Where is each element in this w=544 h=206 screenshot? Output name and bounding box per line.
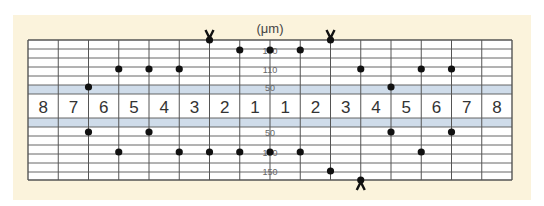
lower-data-point xyxy=(85,128,92,135)
lower-data-point xyxy=(145,128,152,135)
upper-scale-label: 50 xyxy=(265,83,275,93)
v-marker-icon xyxy=(327,30,335,38)
lower-scale-label: 150 xyxy=(262,167,277,177)
upper-data-point xyxy=(357,65,364,72)
column-label: 7 xyxy=(69,98,78,117)
column-label: 2 xyxy=(311,98,320,117)
v-marker-icon xyxy=(206,30,214,38)
lower-data-point xyxy=(418,148,425,155)
column-label: 6 xyxy=(432,98,441,117)
lower-data-point xyxy=(206,148,213,155)
upper-data-point xyxy=(115,65,122,72)
lower-data-point xyxy=(297,148,304,155)
upper-data-point xyxy=(418,65,425,72)
column-label: 4 xyxy=(371,98,380,117)
column-label: 2 xyxy=(220,98,229,117)
column-label: 6 xyxy=(99,98,108,117)
column-label: 1 xyxy=(280,98,289,117)
lower-data-point xyxy=(387,128,394,135)
lower-data-point xyxy=(115,148,122,155)
column-label: 1 xyxy=(250,98,259,117)
column-label: 8 xyxy=(492,98,501,117)
lower-scale-label: 50 xyxy=(265,128,275,138)
lower-data-point xyxy=(176,148,183,155)
upper-data-point xyxy=(145,65,152,72)
upper-data-point xyxy=(297,46,304,53)
column-label: 3 xyxy=(341,98,350,117)
column-label: 7 xyxy=(462,98,471,117)
tooth-position-chart: 8765432112345678(μm)1001105050100150 xyxy=(0,0,544,206)
lower-data-point xyxy=(266,148,273,155)
upper-data-point xyxy=(387,83,394,90)
upper-data-point xyxy=(448,65,455,72)
unit-label: (μm) xyxy=(257,21,284,36)
column-label: 5 xyxy=(129,98,138,117)
column-label: 8 xyxy=(38,98,47,117)
caret-marker-icon xyxy=(357,182,365,190)
upper-data-point xyxy=(85,83,92,90)
upper-data-point xyxy=(266,46,273,53)
column-label: 5 xyxy=(401,98,410,117)
lower-data-point xyxy=(236,148,243,155)
column-label: 3 xyxy=(190,98,199,117)
upper-data-point xyxy=(236,46,243,53)
column-label: 4 xyxy=(159,98,168,117)
lower-data-point xyxy=(448,128,455,135)
lower-data-point xyxy=(327,167,334,174)
upper-data-point xyxy=(176,65,183,72)
upper-scale-label: 110 xyxy=(263,65,277,75)
